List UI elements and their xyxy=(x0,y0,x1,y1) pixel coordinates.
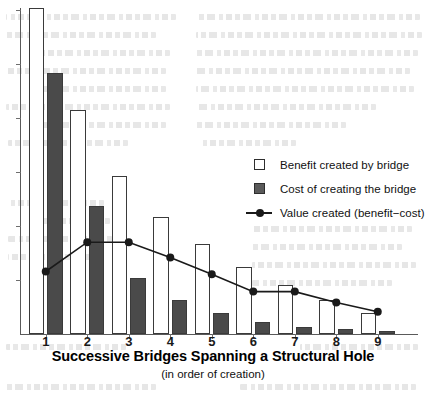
chart-page: 123456789 Benefit created by bridge Cost… xyxy=(0,0,426,397)
legend-label-cost: Cost of creating the bridge xyxy=(280,183,416,195)
value-line-marker xyxy=(166,253,174,261)
legend-item-value: Value created (benefit−cost) xyxy=(246,203,425,222)
x-axis-label: 7 xyxy=(280,334,310,349)
x-axis-label: 8 xyxy=(321,334,351,349)
x-axis-subtitle: (in order of creation) xyxy=(0,368,426,380)
legend-item-benefit: Benefit created by bridge xyxy=(246,155,425,174)
line-marker-key-icon xyxy=(246,206,272,220)
x-axis-label: 4 xyxy=(155,334,185,349)
legend-label-benefit: Benefit created by bridge xyxy=(280,159,409,171)
value-line-marker xyxy=(374,308,382,316)
value-line-marker xyxy=(42,268,50,276)
chart-legend: Benefit created by bridge Cost of creati… xyxy=(246,155,425,227)
value-line-marker xyxy=(249,288,257,296)
x-axis-label: 3 xyxy=(114,334,144,349)
x-axis-title: Successive Bridges Spanning a Structural… xyxy=(0,348,426,364)
value-line-marker xyxy=(291,288,299,296)
value-line-marker xyxy=(83,238,91,246)
x-axis-label: 6 xyxy=(238,334,268,349)
value-line-marker xyxy=(125,238,133,246)
x-axis-label: 9 xyxy=(363,334,393,349)
legend-label-value: Value created (benefit−cost) xyxy=(280,207,425,219)
x-axis-label: 1 xyxy=(31,334,61,349)
value-line-marker xyxy=(208,270,216,278)
legend-item-cost: Cost of creating the bridge xyxy=(246,179,425,198)
open-square-key-icon xyxy=(246,158,272,172)
filled-square-key-icon xyxy=(246,182,272,196)
x-axis-label: 2 xyxy=(72,334,102,349)
x-axis-label: 5 xyxy=(197,334,227,349)
value-line-marker xyxy=(332,298,340,306)
